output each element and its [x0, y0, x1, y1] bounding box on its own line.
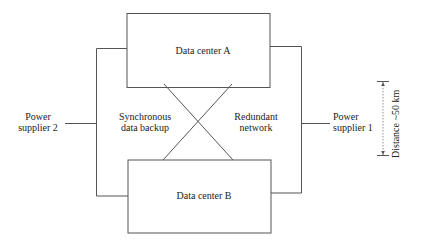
redundant-network-line2: network [228, 122, 284, 133]
power-supplier-1-label: Power supplier 1 [333, 111, 385, 133]
redundant-network-line1: Redundant [228, 111, 284, 122]
power-supplier-2-line2: supplier 2 [12, 122, 64, 133]
sync-backup-line1: Synchronous [113, 111, 177, 122]
power-supplier-2-line1: Power [12, 111, 64, 122]
power-supplier-1-line2: supplier 1 [333, 122, 385, 133]
power-supplier-1-line1: Power [333, 111, 385, 122]
data-center-b-label: Data center B [168, 190, 240, 201]
redundant-network-label: Redundant network [228, 111, 284, 133]
distance-label: Distance ~50 km [390, 90, 401, 158]
power-supplier-2-label: Power supplier 2 [12, 111, 64, 133]
sync-backup-label: Synchronous data backup [113, 111, 177, 133]
sync-backup-line2: data backup [113, 122, 177, 133]
data-center-a-label: Data center A [167, 45, 239, 56]
